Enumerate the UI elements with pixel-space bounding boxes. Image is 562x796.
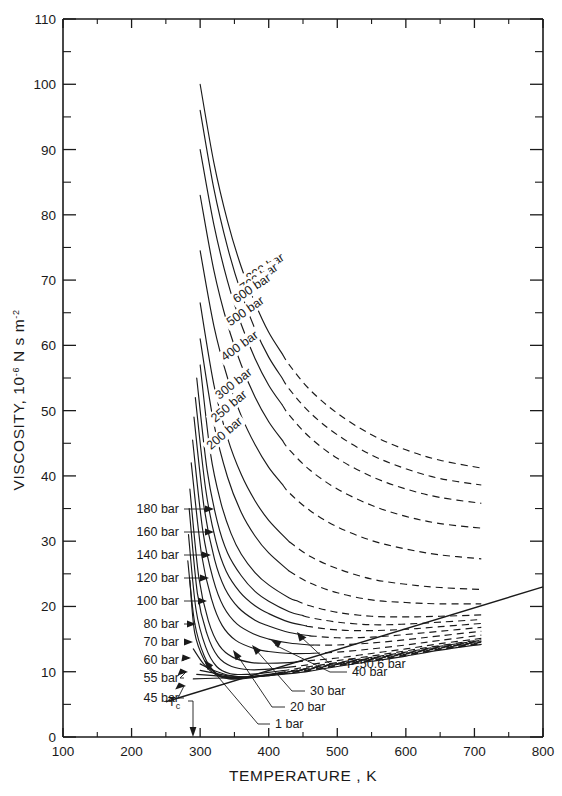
y-tick-label: 90: [41, 143, 56, 158]
left-curve-label: 140 bar: [137, 548, 179, 562]
y-axis-title-main: VISCOSITY: [10, 403, 27, 490]
y-tick-label: 10: [41, 665, 56, 680]
x-tick-label: 700: [463, 744, 486, 759]
chart-background: [0, 0, 562, 796]
x-axis-title: TEMPERATURE , K: [229, 767, 377, 784]
x-tick-label: 300: [189, 744, 212, 759]
y-tick-label: 0: [48, 730, 56, 745]
tc-label-sub: c: [176, 701, 181, 711]
y-tick-label: 40: [41, 469, 56, 484]
y-axis-title-units-post: N s m: [10, 319, 27, 367]
left-curve-label: 55 bar: [144, 671, 179, 685]
left-curve-label: 120 bar: [137, 571, 179, 585]
svg-text:VISCOSITY, 10-6 N s m-2: VISCOSITY, 10-6 N s m-2: [10, 309, 27, 490]
x-tick-label: 800: [532, 744, 555, 759]
left-curve-label: 160 bar: [137, 525, 179, 539]
y-axis-title-exp2: -2: [11, 309, 21, 318]
bottom-curve-label: 30 bar: [310, 684, 345, 698]
y-tick-label: 80: [41, 208, 56, 223]
y-tick-label: 30: [41, 534, 56, 549]
x-tick-label: 600: [395, 744, 418, 759]
y-tick-label: 110: [34, 12, 56, 27]
y-axis-title: VISCOSITY, 10-6 N s m-2: [10, 309, 27, 490]
y-tick-label: 100: [33, 77, 56, 92]
left-curve-label: 180 bar: [137, 502, 179, 516]
x-tick-label: 200: [120, 744, 143, 759]
left-curve-label: 60 bar: [144, 653, 179, 667]
bottom-curve-label: 1 bar: [275, 717, 304, 731]
x-tick-label: 500: [326, 744, 349, 759]
y-axis-title-units-pre: , 10: [10, 376, 27, 404]
y-tick-label: 50: [41, 404, 56, 419]
y-tick-label: 20: [41, 599, 56, 614]
x-tick-label: 400: [257, 744, 280, 759]
left-curve-label: 100 bar: [137, 594, 179, 608]
viscosity-isobar-chart: 1002003004005006007008000102030405060708…: [0, 0, 562, 796]
bottom-curve-label: 20 bar: [290, 700, 325, 714]
left-curve-label: 80 bar: [144, 617, 179, 631]
pc-label-p: P: [347, 657, 355, 671]
left-curve-label: 70 bar: [144, 635, 179, 649]
y-tick-label: 70: [41, 273, 56, 288]
y-axis-title-exp1: -6: [11, 367, 21, 376]
x-tick-label: 100: [52, 744, 75, 759]
y-tick-label: 60: [41, 338, 56, 353]
pc-label-value: 50.6 bar: [360, 657, 406, 671]
